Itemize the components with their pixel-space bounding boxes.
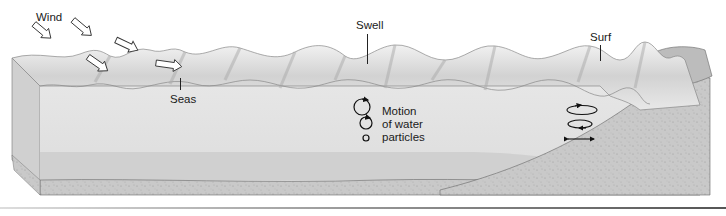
- motion-label: Motion of water particles: [382, 105, 425, 144]
- swell-leader-line: [367, 34, 368, 64]
- seas-label: Seas: [170, 93, 196, 106]
- motion-label-line2: of water: [382, 118, 425, 131]
- motion-label-line1: Motion: [382, 105, 425, 118]
- bottom-divider: [0, 207, 726, 209]
- ocean-wave-diagram: [0, 0, 726, 216]
- surf-leader-line: [600, 45, 601, 61]
- motion-label-line3: particles: [382, 131, 425, 144]
- swell-label: Swell: [356, 19, 383, 32]
- wind-label: Wind: [36, 11, 62, 24]
- surf-label: Surf: [590, 31, 611, 44]
- seas-leader-line: [180, 78, 181, 90]
- wind-arrow-icon: [69, 15, 95, 40]
